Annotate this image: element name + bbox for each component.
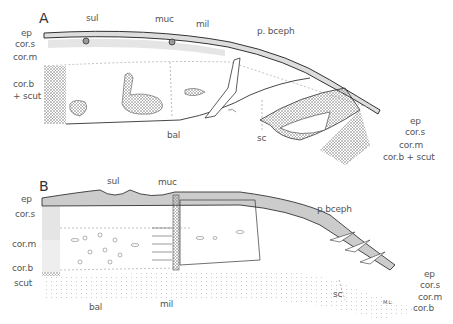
label-a-scut: + scut <box>13 92 41 101</box>
label-b-cor-b: cor.b <box>12 264 33 273</box>
label-b-right-cor-b: cor.b <box>413 304 434 313</box>
label-b-mil: mil <box>160 300 173 309</box>
panel-label-b: B <box>39 178 49 194</box>
label-b-ep: ep <box>21 195 32 204</box>
label-a-cor-s: cor.s <box>15 40 35 49</box>
label-b-right-cor-m: cor.m <box>418 293 442 302</box>
artist-signature: M.L. <box>383 300 392 305</box>
panel-label-a: A <box>39 10 49 26</box>
label-b-right-cor-s: cor.s <box>420 281 440 290</box>
label-a-right-cor-b-scut: cor.b + scut <box>383 153 435 162</box>
label-a-cor-m: cor.m <box>13 53 37 62</box>
label-a-right-cor-s: cor.s <box>405 128 425 137</box>
label-b-sul: sul <box>107 177 119 186</box>
label-b-cor-s: cor.s <box>15 210 35 219</box>
label-b-muc: muc <box>158 178 177 187</box>
label-b-bal: bal <box>89 303 102 312</box>
label-a-p-bceph: p. bceph <box>257 27 294 36</box>
label-a-cor-b: cor.b <box>13 80 34 89</box>
label-a-sc: sc <box>257 134 266 143</box>
label-a-mil: mil <box>196 20 209 29</box>
label-a-right-cor-m: cor.m <box>399 141 423 150</box>
label-b-sc: sc <box>333 290 342 299</box>
label-b-cor-m: cor.m <box>12 240 36 249</box>
panel-a-drawing <box>44 31 380 165</box>
label-a-muc: muc <box>155 15 174 24</box>
label-b-right-ep: ep <box>424 270 435 279</box>
label-a-right-ep: ep <box>410 117 421 126</box>
label-a-ep: ep <box>21 29 32 38</box>
label-a-sul: sul <box>86 14 98 23</box>
diagram-canvas <box>0 0 453 324</box>
label-a-bal: bal <box>167 131 180 140</box>
label-b-p-bceph: p.bceph <box>317 205 352 214</box>
label-b-scut: scut <box>14 279 32 288</box>
panel-b-drawing <box>42 190 420 320</box>
